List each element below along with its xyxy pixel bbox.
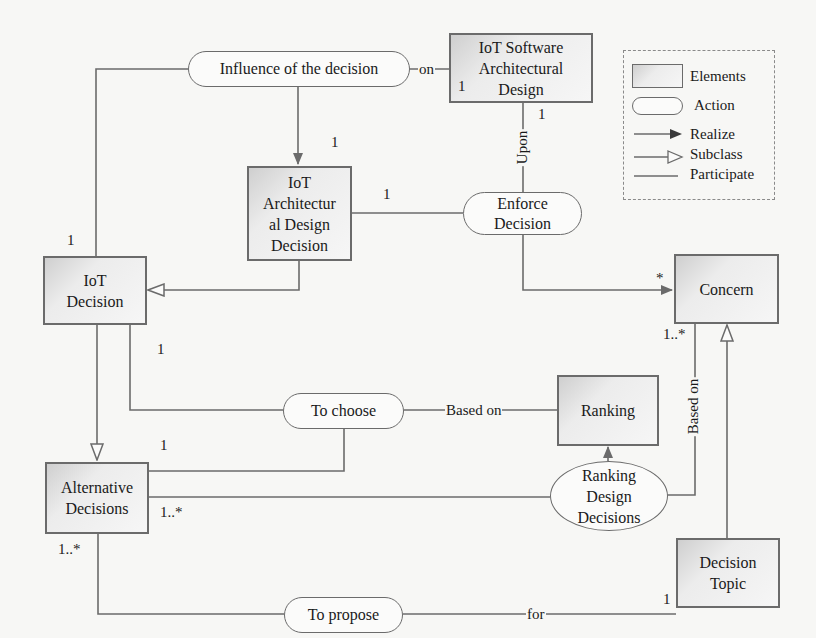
action-label-line: Design (577, 486, 640, 507)
edge-to-choose-alt (148, 428, 344, 471)
edge-label-based-on-ranking: Based on (445, 402, 502, 418)
edge-iot-to-choose (130, 324, 283, 410)
legend-label: Subclass (690, 145, 743, 163)
action-pill-icon (632, 97, 683, 115)
action-to-choose: To choose (283, 393, 404, 429)
multiplicity-label: 1 (67, 232, 75, 248)
element-label-line: IoT Software (479, 37, 564, 58)
multiplicity-label: 1 (458, 78, 466, 94)
multiplicity-label: 1 (160, 437, 168, 453)
action-label-line: Ranking (577, 465, 640, 486)
action-label: Influence of the decision (220, 59, 379, 79)
legend-item-elements: Elements (624, 64, 774, 86)
element-concern: Concern (674, 254, 779, 324)
legend-label: Elements (690, 67, 746, 85)
element-label-line: Architectural (479, 58, 564, 79)
element-label-line: Alternative (61, 477, 133, 498)
element-label-line: Topic (700, 573, 757, 594)
action-label-line: Decision (494, 214, 551, 234)
edge-alt-to-propose (98, 533, 284, 614)
legend-label: Participate (690, 165, 754, 183)
element-label-line: Decision (263, 235, 336, 256)
legend-label: Realize (690, 125, 735, 143)
element-label-line: al Design (263, 214, 336, 235)
legend-item-participate: Participate (624, 167, 774, 189)
element-label-line: IoT (263, 172, 336, 193)
legend-item-realize: Realize (624, 125, 774, 147)
edge-label-on: on (418, 61, 435, 77)
element-label-line: Decisions (61, 498, 133, 519)
element-label-line: Decision (700, 552, 757, 573)
element-box-icon (632, 64, 683, 88)
edge-label-upon: Upon (514, 129, 531, 166)
action-influence-of-the-decision: Influence of the decision (188, 51, 410, 87)
multiplicity-label: 1 (331, 134, 339, 150)
multiplicity-label: 1 (663, 591, 671, 607)
element-label-line: Architectur (263, 193, 336, 214)
element-iot-software-architectural-design: IoT Software Architectural Design (449, 33, 593, 103)
element-label-line: Ranking (581, 400, 635, 421)
multiplicity-label: 1..* (160, 504, 183, 520)
hollow-arrow-icon (632, 149, 692, 165)
edge-enforce-concern (523, 234, 672, 290)
edge-influence-iot-decision (96, 69, 188, 256)
element-decision-topic: Decision Topic (676, 538, 780, 608)
multiplicity-label: * (656, 270, 664, 286)
action-label-line: Decisions (577, 507, 640, 528)
legend: Elements Action Realize Subclass Partici… (623, 50, 775, 200)
multiplicity-label: 1 (157, 341, 165, 357)
line-icon (632, 169, 692, 183)
element-label-line: Decision (67, 291, 124, 312)
multiplicity-label: 1 (538, 106, 546, 122)
element-ranking: Ranking (557, 375, 659, 446)
element-iot-decision: IoT Decision (43, 256, 147, 325)
element-label-line: Concern (699, 279, 753, 300)
action-label-line: Enforce (494, 194, 551, 214)
multiplicity-label: 1..* (58, 541, 81, 557)
element-iot-architectural-design-decision: IoT Architectur al Design Decision (247, 166, 352, 261)
edge-label-for: for (526, 606, 546, 622)
multiplicity-label: 1 (383, 186, 391, 202)
filled-arrow-icon (632, 127, 692, 141)
legend-item-subclass: Subclass (624, 145, 774, 167)
legend-item-action: Action (624, 97, 774, 119)
edge-arch-iot-decision (148, 260, 299, 290)
multiplicity-label: 1..* (663, 326, 686, 342)
element-label-line: Design (479, 79, 564, 100)
action-ranking-design-decisions: Ranking Design Decisions (550, 461, 668, 531)
action-label: To choose (311, 401, 376, 421)
element-label-line: IoT (67, 270, 124, 291)
action-label: To propose (308, 605, 379, 625)
action-enforce-decision: Enforce Decision (463, 192, 582, 235)
element-alternative-decisions: Alternative Decisions (45, 462, 149, 534)
edge-label-based-on-concern: Based on (685, 377, 702, 436)
legend-label: Action (694, 96, 735, 114)
action-to-propose: To propose (284, 597, 403, 633)
